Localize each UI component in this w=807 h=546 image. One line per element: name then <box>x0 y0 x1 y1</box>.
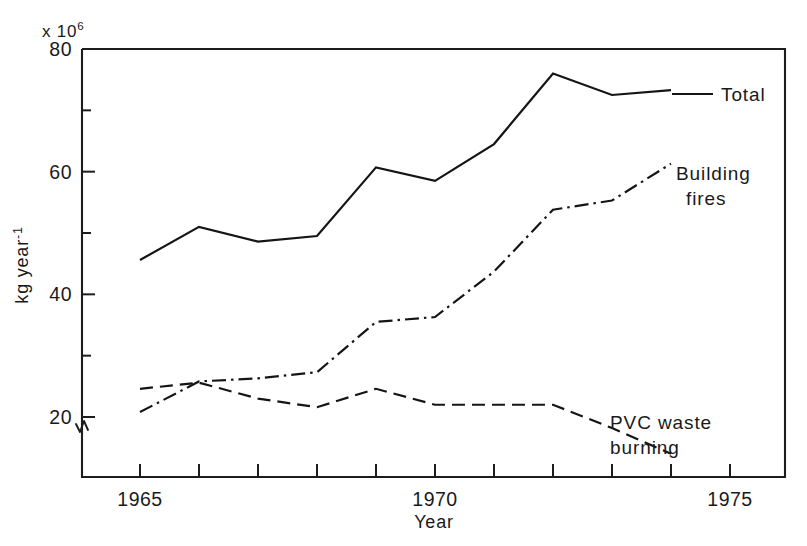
y-tick-label-80: 80 <box>49 38 72 60</box>
x-axis-title: Year <box>414 512 454 532</box>
y-axis-multiplier-exponent: 6 <box>77 20 84 32</box>
y-axis-multiplier-text: x 10 <box>42 22 77 41</box>
y-axis-tick-labels: 20406080 <box>49 38 72 428</box>
x-tick-label-1965: 1965 <box>117 488 162 510</box>
y-tick-label-20: 20 <box>49 406 72 428</box>
y-axis-multiplier: x 106 <box>42 20 85 41</box>
y-axis-title-text: kg year <box>12 239 32 304</box>
y-tick-label-60: 60 <box>49 161 72 183</box>
series-line-building-fires <box>140 164 671 412</box>
series-label-total: Total <box>721 84 766 105</box>
y-axis-ticks <box>82 49 95 417</box>
x-axis-ticks <box>140 464 730 477</box>
series-label-building-fires-line1: Building <box>676 163 751 184</box>
x-tick-label-1970: 1970 <box>412 488 457 510</box>
series-label-building-fires-line2: fires <box>686 188 726 209</box>
x-axis-tick-labels: 196519701975 <box>117 488 752 510</box>
y-axis-title-superscript: -1 <box>11 226 25 239</box>
line-chart: 20406080 196519701975 x 106 kg year-1 Ye… <box>0 0 807 546</box>
series-label-pvc-line2: burning <box>610 437 680 458</box>
y-tick-label-40: 40 <box>49 283 72 305</box>
series-line-total <box>140 74 671 260</box>
figure-container: 20406080 196519701975 x 106 kg year-1 Ye… <box>0 0 807 546</box>
series-line-pvc-waste-burning <box>140 383 671 454</box>
x-tick-label-1975: 1975 <box>707 488 752 510</box>
series-label-pvc-line1: PVC waste <box>610 412 712 433</box>
y-axis-title: kg year-1 <box>11 226 32 303</box>
